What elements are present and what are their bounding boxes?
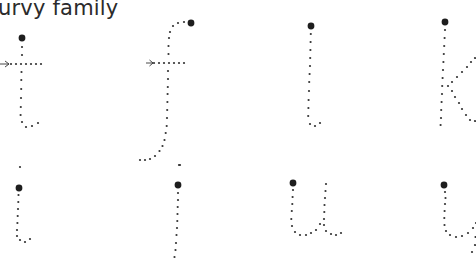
letter-y-trace xyxy=(441,182,476,253)
letter-u-trace xyxy=(290,180,343,236)
tittle-dot xyxy=(19,166,21,168)
start-dot-icon xyxy=(441,182,448,189)
start-dot-icon xyxy=(19,35,26,42)
letter-i-trace xyxy=(16,166,32,243)
letter-t-trace xyxy=(0,35,42,129)
start-dot-icon xyxy=(290,180,297,187)
arrow-right-icon xyxy=(146,60,153,66)
tracing-letters xyxy=(0,0,476,259)
start-dot-icon xyxy=(16,185,23,192)
start-dot-icon xyxy=(442,19,449,26)
start-dot-icon xyxy=(188,20,195,27)
tittle-dot xyxy=(179,164,181,166)
start-dot-icon xyxy=(175,182,182,189)
letter-j-trace xyxy=(173,164,181,258)
letter-k-trace xyxy=(440,19,476,127)
letter-l-trace xyxy=(307,23,321,128)
arrow-right-icon xyxy=(0,61,9,67)
start-dot-icon xyxy=(308,23,315,30)
letter-f-trace xyxy=(139,20,195,166)
